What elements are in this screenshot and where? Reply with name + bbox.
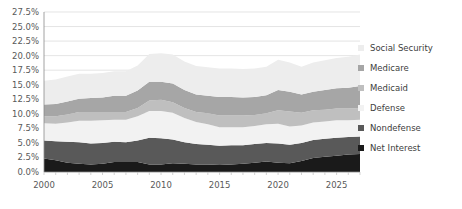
y-axis-tick-labels: 0.0%2.5%5.0%7.5%10.0%12.5%15.0%17.5%20.0… xyxy=(12,7,39,177)
y-axis-tick-label: 7.5% xyxy=(17,123,39,133)
legend-swatch-icon xyxy=(358,145,364,151)
stacked-area-chart: 0.0%2.5%5.0%7.5%10.0%12.5%15.0%17.5%20.0… xyxy=(0,0,462,209)
chart-legend: Social SecurityMedicareMedicaidDefenseNo… xyxy=(358,38,462,158)
y-axis-tick-label: 10.0% xyxy=(12,109,39,119)
legend-item[interactable]: Medicare xyxy=(358,58,462,78)
legend-item-label: Social Security xyxy=(370,44,433,53)
y-axis-tick-label: 25.0% xyxy=(12,22,39,32)
x-axis-tick-label: 2000 xyxy=(33,180,55,190)
y-axis-tick-label: 5.0% xyxy=(17,138,39,148)
legend-swatch-icon xyxy=(358,45,364,51)
legend-swatch-icon xyxy=(358,125,364,131)
legend-item-label: Medicaid xyxy=(370,84,408,93)
legend-item[interactable]: Net Interest xyxy=(358,138,462,158)
legend-swatch-icon xyxy=(358,65,364,71)
y-axis-tick-label: 22.5% xyxy=(12,36,39,46)
y-axis-tick-label: 0.0% xyxy=(17,167,39,177)
plot-areas xyxy=(44,53,360,172)
legend-item[interactable]: Medicaid xyxy=(358,78,462,98)
x-axis-tick-label: 2015 xyxy=(209,180,231,190)
y-axis-tick-label: 17.5% xyxy=(12,65,39,75)
x-axis-tick-label: 2020 xyxy=(267,180,289,190)
legend-item-label: Defense xyxy=(370,104,405,113)
legend-item-label: Medicare xyxy=(370,64,409,73)
legend-swatch-icon xyxy=(358,85,364,91)
y-axis-tick-label: 27.5% xyxy=(12,7,39,17)
legend-item[interactable]: Defense xyxy=(358,98,462,118)
x-axis-tick-labels: 200020052010201520202025 xyxy=(33,180,347,190)
x-axis-tick-label: 2005 xyxy=(92,180,114,190)
legend-swatch-icon xyxy=(358,105,364,111)
y-axis-tick-label: 20.0% xyxy=(12,51,39,61)
legend-item[interactable]: Social Security xyxy=(358,38,462,58)
x-axis-tick-label: 2025 xyxy=(326,180,348,190)
y-axis-tick-label: 12.5% xyxy=(12,94,39,104)
legend-item[interactable]: Nondefense xyxy=(358,118,462,138)
legend-item-label: Net Interest xyxy=(370,144,420,153)
legend-item-label: Nondefense xyxy=(370,124,421,133)
y-axis-tick-label: 15.0% xyxy=(12,80,39,90)
y-axis-tick-label: 2.5% xyxy=(17,152,39,162)
x-axis-tick-label: 2010 xyxy=(150,180,172,190)
